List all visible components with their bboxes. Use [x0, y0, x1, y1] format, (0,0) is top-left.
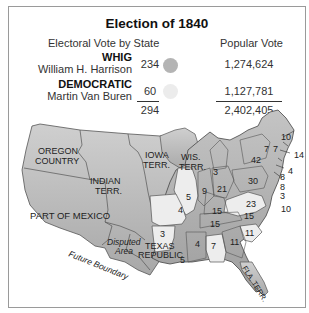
label-indian-terr: INDIAN: [90, 176, 121, 186]
state-vote-ny: 42: [251, 155, 261, 165]
svg-text:COUNTRY: COUNTRY: [35, 156, 79, 166]
us-map-1840: OREGON COUNTRY INDIAN TERR. IOWA TERR. W…: [0, 0, 309, 313]
svg-text:TERR.: TERR.: [95, 186, 122, 196]
state-vote-ga: 11: [230, 237, 239, 247]
state-vote-vt: 7: [264, 144, 269, 154]
state-vote-maine: 10: [281, 132, 291, 142]
label-iowa-terr: IOWA: [145, 150, 169, 160]
state-vote-tn: 15: [210, 219, 220, 229]
state-vote-in: 9: [202, 186, 207, 196]
state-vote-al: 7: [211, 241, 216, 251]
state-vote-ky: 15: [212, 206, 222, 216]
state-vote-ar: 3: [160, 229, 165, 239]
label-part-of-mexico: PART OF MEXICO: [30, 210, 110, 221]
state-vote-ms: 4: [195, 239, 200, 249]
state-vote-la: 5: [180, 255, 185, 265]
state-vote-mo: 4: [178, 205, 183, 215]
svg-text:REPUBLIC: REPUBLIC: [138, 250, 184, 260]
state-vote-mi: 3: [213, 167, 218, 177]
svg-text:TERR.: TERR.: [179, 162, 206, 172]
state-vote-ct: 8: [280, 172, 285, 182]
label-wis-terr: WIS.: [181, 152, 201, 162]
state-vote-pa: 30: [248, 176, 258, 186]
svg-text:TERR.: TERR.: [143, 160, 170, 170]
label-oregon: OREGON: [38, 146, 78, 156]
state-vote-va: 23: [246, 199, 256, 209]
state-vote-ri: 4: [288, 166, 293, 176]
state-vote-md: 10: [281, 204, 291, 214]
state-vote-oh: 21: [217, 184, 227, 194]
state-vote-nh: 7: [273, 144, 278, 154]
state-vote-ma: 14: [294, 150, 304, 160]
state-vote-de: 3: [280, 191, 285, 201]
svg-text:Area: Area: [114, 246, 133, 256]
state-vote-il: 5: [186, 192, 191, 202]
state-vote-sc: 11: [245, 228, 254, 238]
state-vote-nc: 15: [244, 211, 254, 221]
